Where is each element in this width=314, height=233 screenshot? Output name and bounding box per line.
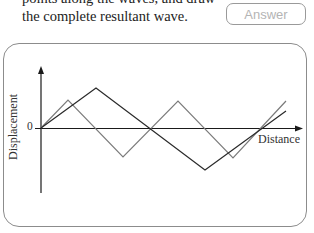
y-axis-arrow-icon: [38, 66, 44, 74]
origin-label: 0: [27, 120, 33, 132]
y-axis-label: Displacement: [6, 94, 21, 160]
x-axis-label: Distance: [258, 132, 300, 147]
wave-diagram: [0, 0, 314, 233]
x-axis-arrow-icon: [295, 126, 303, 132]
